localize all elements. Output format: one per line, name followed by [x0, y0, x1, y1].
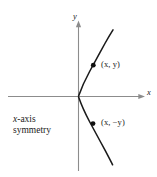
- point-marker-lower: [91, 121, 96, 126]
- y-axis-label: y: [73, 12, 77, 22]
- x-axis-label: x: [147, 88, 151, 98]
- point-label-upper: (x, y): [101, 60, 120, 70]
- figure-canvas: [0, 0, 157, 177]
- point-marker-upper: [91, 63, 96, 68]
- caption-axis-word: -axis: [17, 114, 35, 124]
- symmetry-caption: x-axis symmetry: [13, 114, 51, 135]
- x-axis-symmetry-figure: y x (x, y) (x, −y) x-axis symmetry: [0, 0, 157, 177]
- x-axis-arrow-icon: [138, 94, 145, 99]
- point-label-lower: (x, −y): [101, 118, 125, 128]
- parabola-lower-branch: [79, 97, 113, 165]
- caption-line-two: symmetry: [13, 125, 51, 136]
